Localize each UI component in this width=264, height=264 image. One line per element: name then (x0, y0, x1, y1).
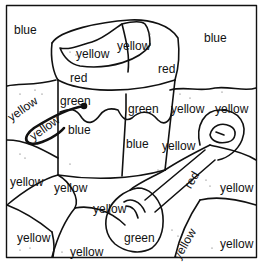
label-sand-bottom-mid: yellow (70, 246, 103, 258)
label-bucket-band-left: green (60, 95, 91, 107)
label-sand-lower-mid: yellow (93, 203, 126, 215)
label-sand-mid-right-3: yellow (162, 140, 195, 152)
label-sky-left: blue (14, 24, 37, 36)
label-sand-bottom-right-2: yellow (220, 238, 253, 250)
label-bucket-rim-left: red (70, 72, 87, 84)
label-sand-lower-left-1: yellow (10, 176, 43, 188)
label-bucket-body-left: blue (68, 124, 91, 136)
label-shovel-blade: green (124, 232, 155, 244)
label-sand-in-bucket-left: yellow (76, 48, 109, 60)
label-bucket-body-right: blue (126, 138, 149, 150)
label-sand-mid-right-1: yellow (171, 103, 204, 115)
label-sky-right: blue (204, 32, 227, 44)
label-sand-in-bucket-right: yellow (117, 40, 150, 52)
coloring-page: blue blue yellow yellow red red green gr… (0, 0, 264, 264)
label-sand-bottom-left: yellow (17, 232, 50, 244)
label-sand-right-mid: yellow (220, 182, 253, 194)
label-sand-mid-right-2: yellow (215, 103, 248, 115)
label-bucket-rim-right: red (158, 63, 175, 75)
label-bucket-band-right: green (128, 103, 159, 115)
label-sand-lower-left-2: yellow (54, 182, 87, 194)
